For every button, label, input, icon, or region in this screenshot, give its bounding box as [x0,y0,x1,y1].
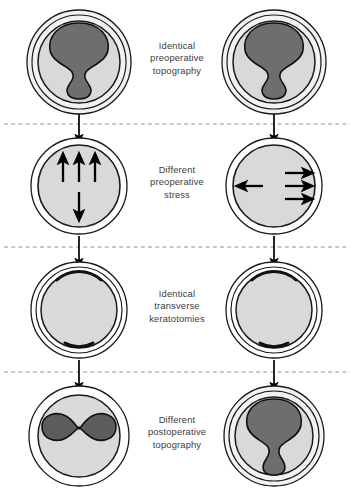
eye-left-preoperative-topography [27,10,131,114]
label-line-3: topography [125,439,229,451]
label-line-1: Different [125,414,229,426]
eye-left-preoperative-stress [31,138,127,234]
label-line-3: keratotomies [125,313,229,325]
label-line-3: topography [125,65,229,77]
label-preoperative-stress: Different preoperative stress [125,164,229,201]
eye-right-preoperative-topography [222,10,326,114]
eye-right-postoperative-topography [224,386,324,486]
label-line-2: transverse [125,300,229,312]
cornea-disc [41,272,117,348]
eye-left-keratotomies [31,262,127,358]
label-postoperative-topography: Different postoperative topography [125,414,229,451]
label-line-1: Identical [125,288,229,300]
label-line-2: postoperative [125,426,229,438]
label-line-1: Different [125,164,229,176]
label-line-3: stress [125,189,229,201]
label-line-2: preoperative [125,176,229,188]
label-line-1: Identical [125,40,229,52]
eye-left-postoperative-topography [29,386,129,486]
eye-right-preoperative-stress [226,138,322,234]
cornea-disc [236,272,312,348]
eye-right-keratotomies [226,262,322,358]
label-transverse-keratotomies: Identical transverse keratotomies [125,288,229,325]
label-preoperative-topography: Identical preoperative topography [125,40,229,77]
label-line-2: preoperative [125,52,229,64]
